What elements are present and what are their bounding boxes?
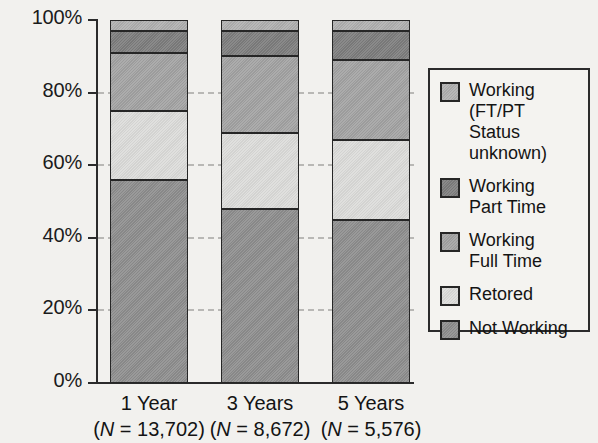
- y-axis-tick-label: 60%: [0, 151, 82, 174]
- bar-segment: [221, 56, 299, 132]
- chart-legend: Working (FT/PT Status unknown)Working Pa…: [428, 68, 590, 332]
- y-axis-tick-label: 0%: [0, 369, 82, 392]
- bar-segment: [110, 180, 188, 383]
- bar-segment: [221, 31, 299, 56]
- bar-3-years: [221, 20, 299, 383]
- legend-item-label: Working Full Time: [469, 230, 542, 272]
- legend-swatch-icon: [440, 232, 460, 252]
- x-axis-sample-size-label: (N = 5,576): [301, 416, 441, 442]
- legend-swatch-icon: [440, 178, 460, 198]
- bar-segment: [110, 20, 188, 31]
- stacked-bar-chart: 100%80%60%40%20%0% 1 Year(N = 13,702)3 Y…: [0, 0, 598, 443]
- legend-item: Working Part Time: [440, 176, 588, 218]
- bar-segment: [221, 20, 299, 31]
- legend-item: Working Full Time: [440, 230, 588, 272]
- y-axis-tick-label: 80%: [0, 79, 82, 102]
- bar-segment: [221, 133, 299, 209]
- bar-segment: [332, 220, 410, 383]
- plot-area: [104, 20, 414, 383]
- legend-item: Retored: [440, 284, 588, 306]
- legend-item-label: Retored: [469, 284, 533, 305]
- y-axis-tick-label: 100%: [0, 6, 82, 29]
- bar-segment: [110, 111, 188, 180]
- legend-item-label: Working Part Time: [469, 176, 546, 218]
- y-axis-tick-label: 40%: [0, 224, 82, 247]
- bar-segment: [332, 140, 410, 220]
- bar-5-years: [332, 20, 410, 383]
- bar-segment: [110, 53, 188, 111]
- bar-segment: [221, 209, 299, 383]
- bar-segment: [110, 31, 188, 53]
- legend-item: Working (FT/PT Status unknown): [440, 80, 588, 164]
- x-axis-category-group: 5 Years(N = 5,576): [301, 391, 441, 442]
- legend-item: Not Working: [440, 318, 588, 340]
- x-axis-category-label: 5 Years: [301, 391, 441, 416]
- bar-segment: [332, 20, 410, 31]
- bar-1-year: [110, 20, 188, 383]
- legend-item-label: Working (FT/PT Status unknown): [469, 80, 588, 164]
- bar-segment: [332, 60, 410, 140]
- legend-swatch-icon: [440, 320, 460, 340]
- legend-swatch-icon: [440, 82, 460, 102]
- y-axis-line: [96, 19, 98, 384]
- bar-segment: [332, 31, 410, 60]
- legend-swatch-icon: [440, 286, 460, 306]
- legend-item-label: Not Working: [469, 318, 568, 339]
- y-axis-tick-label: 20%: [0, 296, 82, 319]
